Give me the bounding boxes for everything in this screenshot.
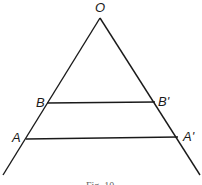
left-ray	[3, 18, 100, 175]
right-ray	[100, 18, 200, 175]
triangle-figure	[0, 0, 202, 185]
label-a-prime: A'	[183, 130, 194, 143]
label-a: A	[12, 131, 21, 144]
label-b-prime: B'	[158, 95, 169, 108]
segment-bb-prime	[47, 102, 155, 103]
label-o: O	[95, 1, 105, 14]
segment-aa-prime	[26, 137, 178, 139]
label-b: B	[36, 96, 45, 109]
figure-caption: Fig. 10	[86, 181, 114, 185]
